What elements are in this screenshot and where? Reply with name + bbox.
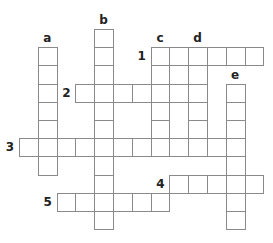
grid-cell[interactable] (151, 47, 170, 66)
grid-cell[interactable] (151, 84, 170, 103)
grid-cell[interactable] (94, 156, 114, 176)
grid-cell[interactable] (151, 138, 170, 157)
grid-cell[interactable] (169, 84, 189, 103)
grid-cell[interactable] (19, 138, 39, 157)
clue-label-5: 5 (43, 196, 51, 208)
grid-cell[interactable] (151, 120, 170, 139)
grid-cell[interactable] (226, 138, 246, 157)
grid-cell[interactable] (113, 193, 133, 212)
grid-cell[interactable] (226, 102, 246, 121)
grid-cell[interactable] (38, 84, 58, 103)
grid-cell[interactable] (94, 102, 114, 121)
clue-label-2: 2 (62, 87, 70, 99)
grid-cell[interactable] (94, 47, 114, 66)
crossword-grid: 12345abcde (0, 0, 273, 243)
grid-cell[interactable] (94, 84, 114, 103)
grid-cell[interactable] (169, 47, 189, 66)
clue-label-b: b (99, 14, 108, 26)
grid-cell[interactable] (226, 47, 246, 66)
grid-cell[interactable] (75, 193, 95, 212)
grid-cell[interactable] (245, 175, 264, 194)
clue-label-3: 3 (6, 141, 14, 153)
grid-cell[interactable] (132, 138, 152, 157)
grid-cell[interactable] (188, 47, 208, 66)
clue-label-4: 4 (156, 178, 164, 190)
grid-cell[interactable] (75, 84, 95, 103)
grid-cell[interactable] (94, 29, 114, 48)
grid-cell[interactable] (94, 65, 114, 85)
grid-cell[interactable] (113, 138, 133, 157)
grid-cell[interactable] (151, 193, 170, 212)
grid-cell[interactable] (38, 47, 58, 66)
grid-cell[interactable] (94, 193, 114, 212)
clue-label-e: e (231, 69, 239, 81)
grid-cell[interactable] (38, 102, 58, 121)
grid-cell[interactable] (188, 175, 208, 194)
grid-cell[interactable] (151, 65, 170, 85)
grid-cell[interactable] (188, 102, 208, 121)
clue-label-d: d (193, 32, 202, 44)
clue-label-1: 1 (137, 50, 145, 62)
grid-cell[interactable] (151, 102, 170, 121)
grid-cell[interactable] (169, 175, 189, 194)
grid-cell[interactable] (132, 84, 152, 103)
grid-cell[interactable] (226, 120, 246, 139)
grid-cell[interactable] (38, 120, 58, 139)
grid-cell[interactable] (226, 211, 246, 230)
grid-cell[interactable] (38, 138, 58, 157)
grid-cell[interactable] (207, 175, 227, 194)
grid-cell[interactable] (207, 47, 227, 66)
grid-cell[interactable] (57, 138, 76, 157)
grid-cell[interactable] (132, 193, 152, 212)
grid-cell[interactable] (57, 193, 76, 212)
grid-cell[interactable] (94, 175, 114, 194)
grid-cell[interactable] (245, 47, 264, 66)
grid-cell[interactable] (207, 138, 227, 157)
grid-cell[interactable] (188, 120, 208, 139)
grid-cell[interactable] (169, 138, 189, 157)
grid-cell[interactable] (38, 156, 58, 176)
clue-label-c: c (156, 32, 163, 44)
grid-cell[interactable] (188, 84, 208, 103)
grid-cell[interactable] (94, 120, 114, 139)
grid-cell[interactable] (94, 211, 114, 230)
grid-cell[interactable] (94, 138, 114, 157)
clue-label-a: a (43, 32, 51, 44)
grid-cell[interactable] (226, 193, 246, 212)
grid-cell[interactable] (188, 65, 208, 85)
grid-cell[interactable] (75, 138, 95, 157)
grid-cell[interactable] (113, 84, 133, 103)
grid-cell[interactable] (226, 156, 246, 176)
grid-cell[interactable] (226, 175, 246, 194)
grid-cell[interactable] (188, 138, 208, 157)
grid-cell[interactable] (38, 65, 58, 85)
grid-cell[interactable] (226, 84, 246, 103)
